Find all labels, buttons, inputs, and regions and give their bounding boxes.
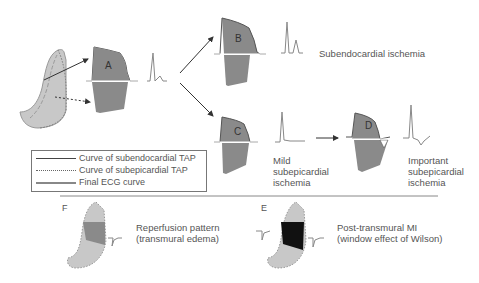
caption-f: Reperfusion pattern (transmural edema) [136, 222, 219, 244]
legend-item-final-ecg: Final ECG curve [36, 177, 145, 188]
legend-line-solid-thick [36, 182, 76, 184]
heart-wall-icon [20, 50, 66, 128]
legend-label: Curve of subepicardial TAP [79, 165, 188, 176]
legend-item-subendocardial: Curve of subendocardial TAP [36, 153, 196, 164]
tap-curve-b [214, 18, 266, 86]
legend-item-subepicardial: Curve of subepicardial TAP [36, 165, 188, 176]
panel-label-f: F [62, 203, 68, 214]
panel-label-a: A [105, 60, 112, 71]
ecg-d [403, 105, 430, 145]
heart-f-icon [67, 202, 106, 268]
legend-label: Curve of subendocardial TAP [79, 153, 196, 164]
caption-e-line-2: (window effect of Wilson) [337, 233, 442, 244]
heart-e-icon [268, 202, 306, 268]
panel-label-c: C [234, 126, 241, 137]
caption-c-line-1: Mild [273, 155, 329, 166]
ecg-e-right [308, 238, 324, 247]
legend-label: Final ECG curve [79, 177, 145, 188]
panel-label-e: E [261, 203, 267, 214]
caption-d-line-2: subepicardial [408, 166, 464, 177]
caption-b: Subendocardial ischemia [319, 48, 425, 59]
legend-line-solid-thin [36, 158, 76, 159]
arrow-to-c [180, 83, 213, 116]
legend-line-dotted [36, 170, 76, 171]
legend: Curve of subendocardial TAP Curve of sub… [31, 150, 207, 192]
ecg-b [281, 22, 303, 53]
caption-d-line-1: Important [408, 155, 464, 166]
caption-d-line-3: ischemia [408, 177, 464, 188]
caption-f-line-2: (transmural edema) [136, 233, 219, 244]
ecg-a [147, 53, 167, 81]
caption-c: Mild subepicardial ischemia [273, 155, 329, 188]
ecg-f [108, 238, 122, 246]
ecg-c [275, 112, 305, 142]
caption-e-line-1: Post-transmural MI [337, 222, 442, 233]
caption-d: Important subepicardial ischemia [408, 155, 464, 188]
caption-e: Post-transmural MI (window effect of Wil… [337, 222, 442, 244]
arrow-to-b [180, 37, 213, 73]
caption-c-line-3: ischemia [273, 177, 329, 188]
panel-label-d: D [365, 120, 372, 131]
caption-f-line-1: Reperfusion pattern [136, 222, 219, 233]
caption-c-line-2: subepicardial [273, 166, 329, 177]
tap-curve-a [86, 47, 138, 113]
panel-label-b: B [235, 33, 242, 44]
ecg-e-left [256, 231, 270, 240]
